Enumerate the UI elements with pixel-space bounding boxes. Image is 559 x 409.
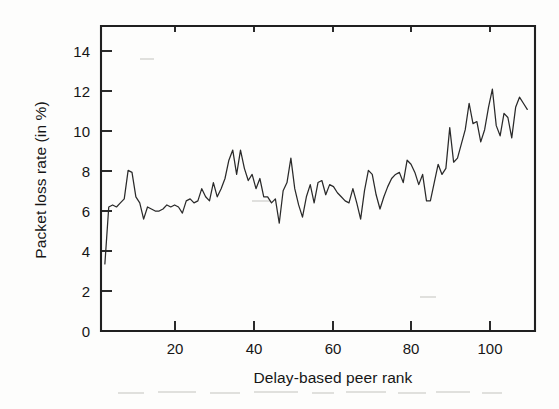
chart-canvas: 14 12 10 8 6 4 2 0 20 40 60 80 100 Delay… — [0, 0, 559, 409]
y-tick-label: 0 — [82, 323, 90, 340]
y-tick-label: 6 — [82, 203, 90, 220]
y-tick-label: 8 — [82, 163, 90, 180]
y-axis-title: Packet loss rate (in %) — [32, 101, 49, 258]
y-tick-label: 4 — [82, 243, 90, 260]
x-tick-label: 80 — [403, 340, 420, 357]
x-tick-label: 100 — [477, 340, 502, 357]
y-tick-label: 10 — [73, 123, 90, 140]
chart-figure: 14 12 10 8 6 4 2 0 20 40 60 80 100 Delay… — [0, 0, 559, 409]
x-axis-title: Delay-based peer rank — [254, 369, 413, 386]
y-tick-label: 2 — [82, 283, 90, 300]
y-tick-label: 14 — [73, 43, 90, 60]
x-tick-label: 40 — [246, 340, 263, 357]
y-tick-label: 12 — [73, 83, 90, 100]
x-tick-label: 20 — [167, 340, 184, 357]
x-tick-label: 60 — [325, 340, 342, 357]
